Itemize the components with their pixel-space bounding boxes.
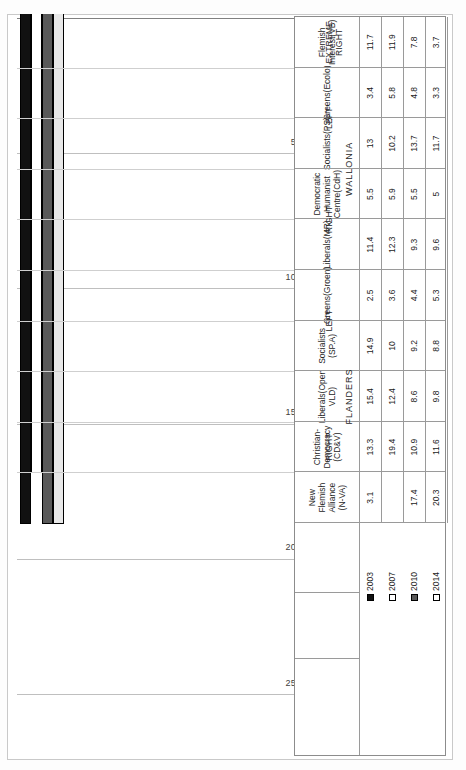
bar-group bbox=[17, 423, 294, 474]
table-region-label: WALLONIA bbox=[344, 68, 354, 270]
bar-2007 bbox=[31, 14, 42, 69]
category-separator bbox=[17, 422, 294, 423]
bar-2014 bbox=[53, 14, 64, 69]
table-cell: 13 bbox=[359, 118, 381, 169]
table-cell: 3.3 bbox=[425, 68, 447, 119]
legend-swatch-2010 bbox=[411, 594, 418, 601]
table-wing-label: EXTREME RIGHT bbox=[325, 17, 345, 68]
bar-group bbox=[17, 119, 294, 170]
data-table: New Flemish Alliance (N-VA)3.117.420.3Ch… bbox=[294, 16, 446, 756]
table-cell: 13.7 bbox=[403, 118, 425, 169]
table-cell: 12.3 bbox=[381, 219, 403, 270]
table-cell: 9.3 bbox=[403, 219, 425, 270]
table-cell: 5.9 bbox=[381, 169, 403, 220]
table-region-label: FLANDERS bbox=[344, 270, 354, 523]
table-cell: 5.5 bbox=[359, 169, 381, 220]
category-separator bbox=[17, 68, 294, 69]
table-cell: 4.4 bbox=[403, 270, 425, 321]
table-cell: 11.6 bbox=[425, 422, 447, 473]
category-separator bbox=[17, 371, 294, 372]
table-cell: 19.4 bbox=[381, 422, 403, 473]
table-cell: 15.4 bbox=[359, 371, 381, 422]
table-wing-label: LEFT bbox=[325, 270, 335, 371]
bar-2003 bbox=[20, 14, 31, 69]
table-header-col-divider bbox=[295, 658, 359, 659]
plot-area: 0510152025 bbox=[9, 16, 294, 756]
category-separator bbox=[17, 169, 294, 170]
table-wing-label: LEFT bbox=[325, 68, 335, 169]
table-grid: New Flemish Alliance (N-VA)3.117.420.3Ch… bbox=[295, 17, 445, 755]
table-cell: 14.9 bbox=[359, 321, 381, 372]
legend-swatch-2003 bbox=[367, 594, 374, 601]
table-cell: 9.6 bbox=[425, 219, 447, 270]
category-separator bbox=[17, 321, 294, 322]
legend-item: 2010 bbox=[409, 572, 419, 601]
table-cell: 5 bbox=[425, 169, 447, 220]
legend-label: 2014 bbox=[431, 572, 441, 591]
bar-group bbox=[17, 322, 294, 373]
scanned-page: 0510152025 New Flemish Alliance (N-VA)3.… bbox=[0, 0, 466, 770]
bar-group bbox=[17, 69, 294, 120]
table-cell: 4.8 bbox=[403, 68, 425, 119]
table-cell: 7.8 bbox=[403, 17, 425, 68]
legend-item: 2014 bbox=[431, 572, 441, 601]
table-cell: 5.5 bbox=[403, 169, 425, 220]
table-header-col-divider bbox=[295, 592, 359, 593]
bar-group bbox=[17, 372, 294, 423]
table-cell: 11.4 bbox=[359, 219, 381, 270]
rotated-figure-wrapper: 0510152025 New Flemish Alliance (N-VA)3.… bbox=[7, 14, 451, 758]
table-wing-label: RIGHT bbox=[325, 371, 335, 523]
bar-group bbox=[17, 18, 294, 69]
category-separator bbox=[17, 219, 294, 220]
table-cell: 8.8 bbox=[425, 321, 447, 372]
bar-2010 bbox=[42, 14, 53, 69]
table-cell: 3.4 bbox=[359, 68, 381, 119]
legend-label: 2010 bbox=[409, 572, 419, 591]
category-separator bbox=[17, 270, 294, 271]
table-cell: 2.5 bbox=[359, 270, 381, 321]
legend-item: 2007 bbox=[387, 572, 397, 601]
table-cell: 13.3 bbox=[359, 422, 381, 473]
legend-item: 2003 bbox=[365, 572, 375, 601]
bar-group bbox=[17, 220, 294, 271]
table-cell: 12.4 bbox=[381, 371, 403, 422]
bar-chart-figure: 0510152025 New Flemish Alliance (N-VA)3.… bbox=[9, 16, 449, 756]
table-row-divider bbox=[447, 17, 448, 523]
legend-label: 2007 bbox=[387, 572, 397, 591]
bar-group bbox=[17, 271, 294, 322]
table-cell: 11.7 bbox=[425, 118, 447, 169]
table-cell: 8.6 bbox=[403, 371, 425, 422]
table-cell: 3.7 bbox=[425, 17, 447, 68]
table-cell: 3.6 bbox=[381, 270, 403, 321]
legend-swatch-2007 bbox=[389, 594, 396, 601]
table-cell: 10.9 bbox=[403, 422, 425, 473]
table-cell: 10.2 bbox=[381, 118, 403, 169]
bar-group bbox=[17, 473, 294, 524]
table-cell: 11.9 bbox=[381, 17, 403, 68]
table-wing-label: RIGHT bbox=[325, 169, 335, 270]
table-cell: 5.8 bbox=[381, 68, 403, 119]
table-cell: 9.2 bbox=[403, 321, 425, 372]
table-cell: 3.1 bbox=[359, 472, 381, 523]
table-cell bbox=[381, 472, 403, 523]
bar-group bbox=[17, 170, 294, 221]
gridline-25 bbox=[17, 694, 294, 695]
category-separator bbox=[17, 118, 294, 119]
category-separator bbox=[17, 472, 294, 473]
table-cell: 17.4 bbox=[403, 472, 425, 523]
legend-swatch-2014 bbox=[433, 594, 440, 601]
table-cell: 10 bbox=[381, 321, 403, 372]
gridline-20 bbox=[17, 559, 294, 560]
table-cell: 5.3 bbox=[425, 270, 447, 321]
legend-label: 2003 bbox=[365, 572, 375, 591]
table-cell: 20.3 bbox=[425, 472, 447, 523]
table-cell: 9.8 bbox=[425, 371, 447, 422]
plot-inner: 0510152025 bbox=[17, 18, 294, 694]
table-cell: 11.7 bbox=[359, 17, 381, 68]
